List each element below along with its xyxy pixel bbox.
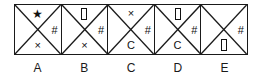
tofu-box-icon [81, 8, 87, 20]
cell-label-c: C [108, 58, 155, 78]
cell-a-right-symbol: # [51, 24, 57, 35]
cell-a-bottom-symbol: × [15, 40, 61, 51]
cell-b-bottom-symbol: × [62, 40, 108, 51]
cell-d-right-symbol: # [191, 24, 197, 35]
cell-d-top-symbol [155, 8, 201, 20]
cell-label-e: E [201, 58, 248, 78]
cell-c-top-symbol: × [108, 8, 154, 19]
grid-cell-d[interactable]: # C [155, 5, 202, 54]
grid-cell-a[interactable]: ★ # × [15, 5, 62, 54]
tofu-box-icon [221, 39, 227, 51]
cell-e-bottom-symbol [201, 39, 247, 51]
cell-label-d: D [154, 58, 201, 78]
grid-cell-c[interactable]: × # C [108, 5, 155, 54]
cell-e-right-symbol: # [238, 24, 244, 35]
tofu-box-icon [175, 8, 181, 20]
grid-cell-b[interactable]: # × [62, 5, 109, 54]
cell-b-top-symbol [62, 8, 108, 20]
figure-stage: ★ # × # × × # C [0, 0, 257, 80]
symbol-grid: ★ # × # × × # C [14, 4, 248, 55]
cell-label-a: A [14, 58, 61, 78]
cell-a-top-symbol: ★ [15, 8, 61, 20]
grid-cell-e[interactable]: # [201, 5, 247, 54]
cell-c-bottom-symbol: C [108, 40, 154, 51]
cell-c-right-symbol: # [145, 24, 151, 35]
cell-d-bottom-symbol: C [155, 40, 201, 51]
cell-labels-row: A B C D E [14, 58, 248, 78]
cell-b-right-symbol: # [98, 24, 104, 35]
cell-label-b: B [61, 58, 108, 78]
